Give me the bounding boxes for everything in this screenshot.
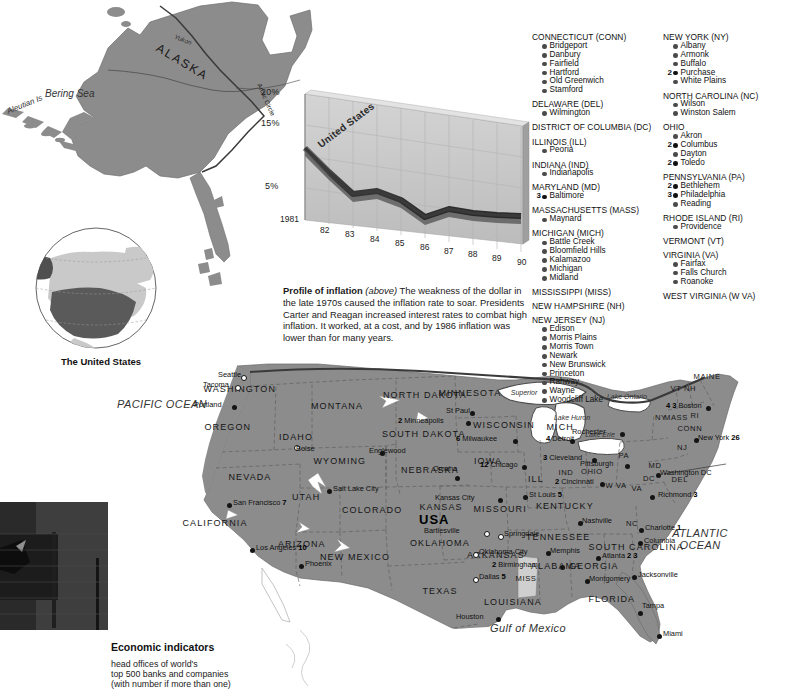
map-label-state: MINNESOTA [439, 388, 502, 398]
map-city-label[interactable]: Oklahoma City [479, 547, 527, 556]
directory-city-count: 3 [532, 192, 541, 201]
map-city-label[interactable]: Kansas City [435, 493, 474, 502]
map-city-count: 10 [298, 543, 306, 552]
map-city-count: 6 [456, 434, 460, 443]
city-directory: CONNECTICUT (CONN)BridgeportDanburyFairf… [532, 33, 792, 363]
map-label-state: TEXAS [423, 586, 458, 596]
map-city-label[interactable]: Memphis [550, 546, 580, 555]
map-label-state: SOUTH DAKOTA [382, 429, 466, 439]
map-city-count: 26 [731, 433, 739, 442]
map-city-label[interactable]: Los Angeles10 [256, 543, 307, 552]
map-city-name: Phoenix [305, 559, 332, 568]
directory-city-dot-icon [673, 103, 678, 108]
map-city-dot-icon [250, 548, 255, 553]
map-label-state: CALIFORNIA [183, 518, 248, 528]
map-city-name: Nashville [582, 516, 612, 525]
directory-city-row[interactable]: 3Baltimore [532, 192, 660, 201]
inflation-caption-above: (above) [365, 285, 397, 296]
directory-city-row[interactable]: White Plains [663, 77, 791, 86]
directory-city-row[interactable]: Stamford [532, 86, 660, 95]
directory-city-count: 2 [663, 159, 672, 168]
directory-city-row[interactable]: Wilmington [532, 109, 660, 118]
directory-city-count: 2 [663, 141, 672, 150]
directory-city-row[interactable]: 2Toledo [663, 159, 791, 168]
globe-inset [28, 228, 176, 359]
directory-state-header: MISSISSIPPI (MISS) [532, 288, 660, 297]
map-city-label[interactable]: Salt Lake City [333, 484, 379, 493]
map-city-label[interactable]: 4Detroit [546, 434, 574, 443]
map-city-name: Milwaukee [462, 434, 497, 443]
directory-city-row[interactable]: Indianapolis [532, 169, 660, 178]
map-city-label[interactable]: Columbia [644, 536, 675, 545]
directory-city-name: Reading [681, 200, 712, 209]
map-label-state: MONTANA [311, 401, 363, 411]
map-city-label[interactable]: 2Minneapolis [398, 416, 444, 425]
map-city-label[interactable]: 4 3Boston [666, 401, 702, 410]
map-city-label[interactable]: Phoenix [305, 559, 332, 568]
map-city-label[interactable]: 6Milwaukee [456, 434, 497, 443]
directory-city-row[interactable]: Peoria [532, 146, 660, 155]
map-city-name: Seattle [218, 370, 241, 379]
map-label-state: MISSOURI [474, 504, 527, 514]
map-city-label[interactable]: Tampa [642, 601, 664, 610]
directory-city-row[interactable]: Providence [663, 223, 791, 232]
directory-city-dot-icon [673, 62, 678, 67]
directory-city-row[interactable]: Roanoke [663, 278, 791, 287]
directory-city-dot-icon [673, 262, 678, 267]
map-city-label[interactable]: St Louis5 [529, 490, 562, 499]
map-city-label[interactable]: San Francisco7 [233, 498, 286, 507]
map-city-label[interactable]: Portland [194, 400, 222, 409]
map-city-label[interactable]: St Paul [446, 406, 470, 415]
directory-city-row[interactable]: Reading [663, 200, 791, 209]
map-label-bering-sea: Bering Sea [45, 88, 94, 99]
map-city-label[interactable]: Charlotte1 [645, 523, 681, 532]
map-city-label[interactable]: 12Chicago [480, 460, 518, 469]
map-city-label[interactable]: Washington DC [660, 468, 711, 477]
map-label-state: WYOMING [314, 456, 367, 466]
map-city-label[interactable]: Tacoma [203, 380, 229, 389]
map-city-name: San Francisco [233, 498, 280, 507]
map-city-label[interactable]: Bartlesville [424, 526, 460, 535]
map-label-state: NJ [677, 443, 687, 452]
directory-city-row[interactable]: Winston Salem [663, 109, 791, 118]
map-city-dot-icon [522, 465, 527, 470]
map-city-label[interactable]: 3Cleveland [543, 453, 582, 462]
map-city-label[interactable]: Nashville [582, 516, 612, 525]
directory-city-dot-icon [542, 53, 547, 58]
map-city-label[interactable]: Jacksonville [638, 570, 678, 579]
map-city-label[interactable]: Englewood [369, 446, 406, 455]
map-city-dot-icon [241, 375, 247, 381]
map-city-label[interactable]: Boise [296, 444, 315, 453]
map-city-label[interactable]: New York26 [698, 433, 740, 442]
map-city-label[interactable]: Richmond3 [658, 490, 698, 499]
map-city-label[interactable]: Miami [663, 629, 683, 638]
directory-city-row[interactable]: Midland [532, 274, 660, 283]
map-city-label[interactable]: Atlanta2 3 [602, 551, 638, 560]
directory-city-row[interactable]: Maynard [532, 215, 660, 224]
map-city-label[interactable]: Rochester [572, 427, 606, 436]
map-city-name: Cleveland [549, 453, 582, 462]
map-label-state: NH [684, 384, 696, 393]
map-city-label[interactable]: 2Birmingham [492, 560, 538, 569]
directory-city-dot-icon [673, 202, 678, 207]
map-city-dot-icon [513, 439, 518, 444]
map-label-state: KANSAS [420, 502, 463, 512]
map-city-count: 7 [282, 498, 286, 507]
map-city-name: Minneapolis [404, 416, 443, 425]
map-city-label[interactable]: Omaha [433, 464, 457, 473]
map-city-label[interactable]: Dallas5 [479, 572, 506, 581]
map-city-dot-icon [523, 495, 528, 500]
map-city-label[interactable]: Springdale [504, 529, 539, 538]
map-label-ocean: Gulf of Mexico [482, 622, 574, 634]
map-city-label[interactable]: Montgomery [589, 574, 630, 583]
map-city-label[interactable]: 2Cincinnati [555, 477, 594, 486]
map-city-dot-icon [620, 432, 625, 437]
map-city-label[interactable]: Pittsburgh [580, 459, 613, 468]
map-city-label[interactable]: Houston [456, 612, 484, 621]
directory-column-2: NEW YORK (NY)AlbanyArmonkBuffalo2Purchas… [663, 33, 791, 301]
map-city-name: Chicago [490, 460, 517, 469]
directory-city-dot-icon [542, 345, 547, 350]
map-label-lake: Lake Huron [546, 414, 598, 421]
map-city-label[interactable]: Seattle [218, 370, 241, 379]
directory-city-dot-icon [542, 218, 547, 223]
